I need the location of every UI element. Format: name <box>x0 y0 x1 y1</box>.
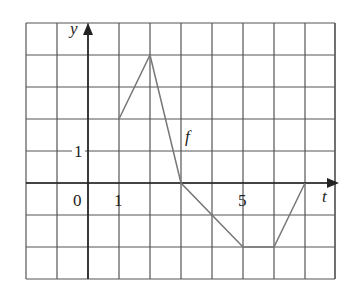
y-axis-label: y <box>70 20 78 37</box>
y-arrow-icon <box>83 23 93 35</box>
y-tick-1: 1 <box>72 143 85 160</box>
x-arrow-icon <box>327 178 339 188</box>
origin-label: 0 <box>73 192 82 209</box>
x-tick-5: 5 <box>238 192 247 209</box>
x-tick-1: 1 <box>114 192 123 209</box>
function-label: f <box>185 128 190 145</box>
chart-svg <box>0 0 351 293</box>
x-axis-label: t <box>322 188 327 205</box>
